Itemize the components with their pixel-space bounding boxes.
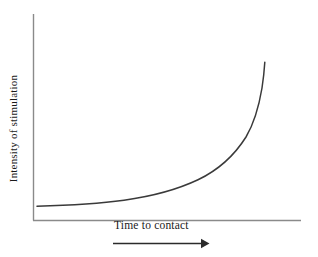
exponential-curve-figure: Intensity of stimulation Time to contact xyxy=(0,0,318,257)
x-axis-title: Time to contact xyxy=(114,220,189,232)
y-axis-title-text: Intensity of stimulation xyxy=(9,75,20,182)
x-direction-arrow-icon xyxy=(113,239,210,248)
y-axis-title: Intensity of stimulation xyxy=(0,0,28,257)
data-curve-intensity xyxy=(37,62,265,206)
